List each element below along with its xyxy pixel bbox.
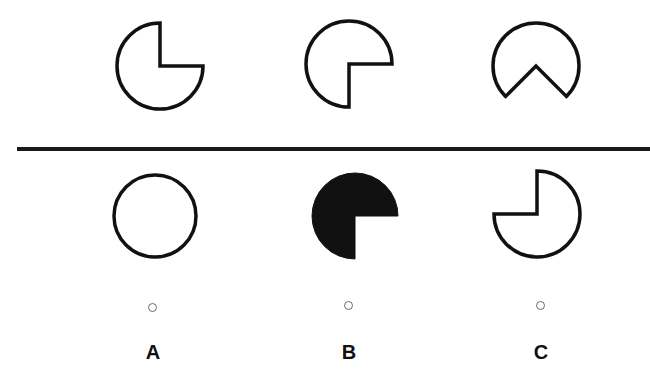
row-divider: [17, 147, 650, 151]
option-c-label[interactable]: C: [521, 342, 561, 362]
puzzle-shapes: [0, 0, 650, 373]
option-a-label[interactable]: A: [133, 342, 173, 362]
option-c-shape-icon: [494, 171, 580, 257]
top-shape-1-icon: [117, 23, 203, 109]
top-shape-3-icon: [493, 23, 579, 96]
option-b-shape-icon: [312, 173, 398, 259]
option-a-shape-icon: [114, 175, 196, 257]
puzzle-stage: A B C: [0, 0, 650, 373]
option-a-radio[interactable]: [148, 303, 157, 312]
top-shape-2-icon: [306, 21, 392, 107]
option-b-radio[interactable]: [344, 301, 353, 310]
option-b-label[interactable]: B: [329, 342, 369, 362]
option-c-radio[interactable]: [536, 301, 545, 310]
